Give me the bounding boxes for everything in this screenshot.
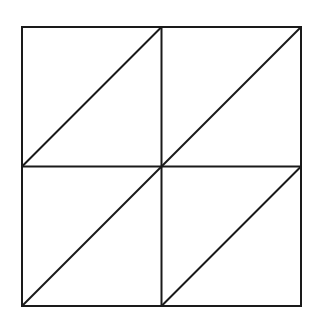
cell-diagonal-line (162, 27, 302, 167)
grid-diagram (0, 0, 319, 333)
cell-diagonal-line (22, 167, 162, 307)
diagram-canvas (0, 0, 319, 333)
cell-diagonal-line (22, 27, 162, 167)
cell-diagonal-line (162, 167, 302, 307)
